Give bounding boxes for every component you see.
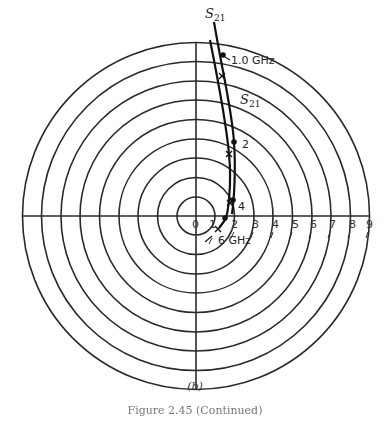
svg-text:8: 8 <box>349 218 356 231</box>
axes <box>22 42 370 390</box>
svg-text:9: 9 <box>366 218 373 231</box>
s21-curve-inner <box>210 40 230 228</box>
freq-label-6ghz: 6 GHz <box>218 234 251 247</box>
svg-text:4: 4 <box>272 218 279 231</box>
polar-chart: 0 1 2 3 4 5 6 7 8 9 <box>0 0 390 424</box>
freq-label-2: 2 <box>242 138 249 151</box>
svg-text:7: 7 <box>329 218 336 231</box>
panel-label: (b) <box>0 380 390 393</box>
svg-text:3: 3 <box>252 218 259 231</box>
s21-label-top: S21 <box>205 6 225 23</box>
freq-label-1ghz: 1.0 GHz <box>231 54 275 67</box>
svg-text:2: 2 <box>231 218 238 231</box>
svg-text:6: 6 <box>310 218 317 231</box>
freq-label-4: 4 <box>238 200 245 213</box>
x-markers <box>215 73 233 232</box>
svg-text:0: 0 <box>192 218 199 231</box>
s21-label-mid: S21 <box>240 92 260 109</box>
svg-text:1: 1 <box>209 218 216 231</box>
figure-caption: Figure 2.45 (Continued) <box>0 404 390 417</box>
svg-text:5: 5 <box>292 218 299 231</box>
